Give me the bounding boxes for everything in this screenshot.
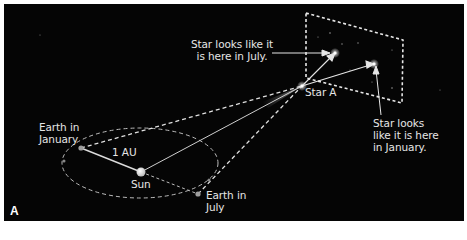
- panel-letter: A: [10, 204, 19, 218]
- label-line: like it is here: [373, 129, 439, 141]
- label-line: Earth in: [206, 189, 246, 201]
- callout-arrow-january: [376, 70, 381, 115]
- label-earth-january: Earth in January: [39, 121, 79, 145]
- label-one-au: 1 AU: [112, 146, 137, 158]
- earth-july-icon: [195, 191, 200, 196]
- earth-january-icon: [78, 145, 83, 150]
- star-image-july-icon: [334, 52, 337, 55]
- label-line: January: [39, 133, 79, 145]
- star-a-icon: [300, 84, 303, 87]
- label-january-image: Star looks like it is here in January.: [373, 117, 439, 153]
- label-line: Earth in: [39, 121, 79, 133]
- sun-icon: [137, 168, 146, 177]
- label-star-a: Star A: [305, 86, 336, 98]
- label-line: is here in July.: [190, 50, 274, 62]
- sightline-january: [81, 86, 302, 148]
- label-earth-july: Earth in July: [206, 189, 246, 213]
- sun-to-star-line: [141, 86, 302, 172]
- label-line: Star looks like it: [190, 38, 274, 50]
- label-sun: Sun: [131, 178, 151, 190]
- orbit-marker: [208, 179, 211, 182]
- sightline-july: [198, 86, 302, 194]
- label-line: in January.: [373, 141, 439, 153]
- star-image-january-icon: [373, 63, 376, 66]
- label-line: Star looks: [373, 117, 439, 129]
- label-line: July: [206, 201, 246, 213]
- orbit-marker: [63, 160, 66, 163]
- label-july-image: Star looks like it is here in July.: [190, 38, 274, 62]
